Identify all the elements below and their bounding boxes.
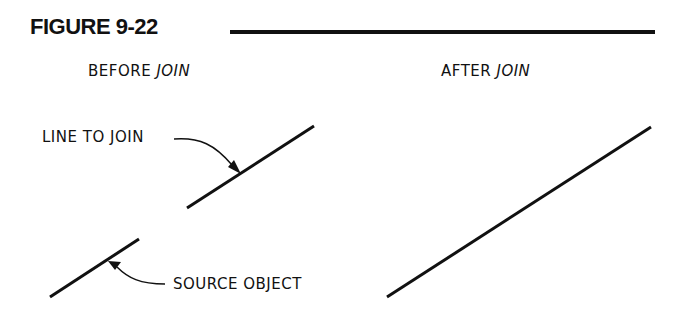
source-object-line (50, 239, 139, 297)
leader-line-to-join (174, 139, 232, 165)
leader-source-object (117, 267, 165, 284)
line-to-join (187, 126, 314, 208)
diagram-canvas (0, 0, 681, 323)
joined-line (387, 127, 651, 297)
